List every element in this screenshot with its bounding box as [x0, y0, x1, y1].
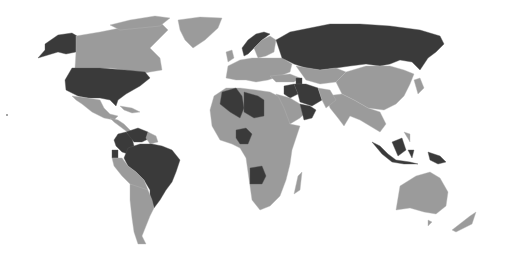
country-australia[interactable]	[396, 172, 448, 214]
country-papua-new-guinea[interactable]	[428, 152, 446, 164]
world-map	[0, 0, 505, 262]
country-guyana-region	[146, 132, 158, 144]
country-uae-oman[interactable]	[300, 104, 316, 120]
country-tasmania	[428, 220, 432, 226]
country-new-zealand	[452, 212, 476, 232]
country-philippines	[404, 132, 410, 142]
country-malaysia-brunei[interactable]	[392, 138, 406, 156]
country-japan-korea	[414, 78, 424, 94]
country-greenland[interactable]	[178, 17, 222, 48]
caribbean	[120, 106, 140, 113]
country-ecuador[interactable]	[112, 150, 118, 158]
country-azerbaijan[interactable]	[296, 78, 302, 84]
country-uk	[226, 50, 234, 62]
country-alaska[interactable]	[38, 33, 77, 58]
country-indonesia-sulawesi[interactable]	[408, 150, 414, 158]
country-russia[interactable]	[276, 24, 444, 70]
island-dot	[6, 114, 8, 116]
country-madagascar	[294, 172, 302, 194]
